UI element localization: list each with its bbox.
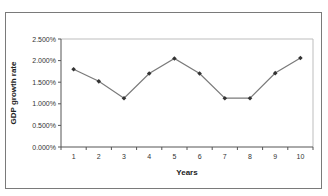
x-tick-label: 3: [122, 153, 126, 160]
plot-area: [61, 39, 313, 147]
x-axis: 12345678910: [61, 147, 313, 160]
x-tick-label: 5: [172, 153, 176, 160]
y-axis-title: GDP growth rate: [9, 61, 18, 125]
y-tick-label: 0.500%: [32, 122, 56, 129]
x-tick-label: 4: [147, 153, 151, 160]
y-tick-label: 1.000%: [32, 100, 56, 107]
line-chart: 0.000%0.500%1.000%1.500%2.000%2.500% 123…: [0, 0, 328, 196]
y-tick-label: 2.000%: [32, 57, 56, 64]
data-point-marker: [71, 67, 76, 72]
x-tick-label: 7: [223, 153, 227, 160]
y-tick-label: 0.000%: [32, 144, 56, 151]
series-line: [74, 58, 301, 98]
y-tick-label: 2.500%: [32, 36, 56, 43]
x-tick-label: 10: [297, 153, 305, 160]
x-tick-label: 9: [273, 153, 277, 160]
y-tick-label: 1.500%: [32, 79, 56, 86]
x-tick-label: 8: [248, 153, 252, 160]
y-axis: 0.000%0.500%1.000%1.500%2.000%2.500%: [32, 36, 61, 151]
x-axis-title: Years: [176, 168, 198, 177]
x-tick-label: 2: [97, 153, 101, 160]
x-tick-label: 6: [198, 153, 202, 160]
data-series: [71, 56, 302, 101]
x-tick-label: 1: [72, 153, 76, 160]
